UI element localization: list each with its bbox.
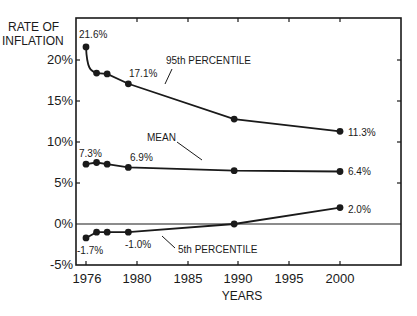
series-label-5th: 5th PERCENTILE — [178, 244, 258, 255]
annotation-6-4: 6.4% — [348, 166, 371, 177]
x-tick-1976: 1976 — [73, 271, 102, 286]
x-tick-2000: 2000 — [326, 271, 355, 286]
x-tick-1995: 1995 — [275, 271, 304, 286]
chart-svg: RATE OF INFLATION 20% 15% 10% 5% 0% -5% … — [0, 0, 417, 316]
data-point — [93, 70, 100, 77]
annotation-17-1: 17.1% — [129, 68, 157, 79]
data-point — [125, 80, 132, 87]
data-point — [231, 221, 238, 228]
x-tick-1980: 1980 — [123, 271, 152, 286]
data-point — [337, 204, 344, 211]
pointer-95th — [165, 69, 172, 84]
annotation-minus-1-7: -1.7% — [77, 245, 103, 256]
data-point — [104, 161, 111, 168]
data-point — [83, 43, 90, 50]
annotation-minus-1-0: -1.0% — [125, 239, 151, 250]
series-line-1 — [86, 163, 340, 172]
series-label-mean: MEAN — [147, 132, 176, 143]
pointer-mean — [177, 142, 202, 160]
pointer-5th — [162, 236, 175, 248]
y-tick-minus5: -5% — [50, 257, 74, 272]
y-tick-15: 15% — [47, 93, 73, 108]
data-point — [337, 128, 344, 135]
y-tick-0: 0% — [54, 216, 73, 231]
y-tick-10: 10% — [47, 134, 73, 149]
data-point — [125, 229, 132, 236]
data-point — [231, 167, 238, 174]
inflation-chart: RATE OF INFLATION 20% 15% 10% 5% 0% -5% … — [0, 0, 417, 316]
data-point — [83, 235, 90, 242]
data-point — [337, 168, 344, 175]
data-point — [104, 229, 111, 236]
annotation-2-0: 2.0% — [348, 204, 371, 215]
annotation-21-6: 21.6% — [79, 29, 107, 40]
annotation-7-3: 7.3% — [79, 148, 102, 159]
series-line-2 — [86, 208, 340, 238]
annotation-6-9: 6.9% — [130, 152, 153, 163]
x-tick-1990: 1990 — [224, 271, 253, 286]
y-axis-ticks — [76, 60, 401, 183]
x-axis-label: YEARS — [222, 289, 263, 303]
y-tick-5: 5% — [54, 175, 73, 190]
data-point — [93, 229, 100, 236]
y-tick-20: 20% — [47, 52, 73, 67]
annotation-11-3: 11.3% — [348, 127, 376, 138]
x-tick-1985: 1985 — [174, 271, 203, 286]
data-point — [231, 116, 238, 123]
data-point — [93, 159, 100, 166]
y-axis-label-line2: INFLATION — [2, 34, 64, 48]
series-layer — [83, 43, 344, 241]
y-axis-label-line1: RATE OF — [8, 20, 59, 34]
series-label-95th: 95th PERCENTILE — [166, 55, 251, 66]
data-point — [83, 161, 90, 168]
data-point — [125, 164, 132, 171]
data-point — [104, 71, 111, 78]
